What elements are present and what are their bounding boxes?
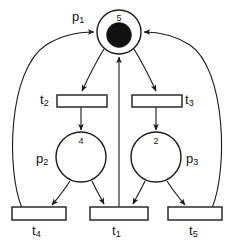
transition-t4[interactable] xyxy=(12,207,66,220)
arc-p2-to-t4 xyxy=(52,181,70,205)
label-t5-sub: 5 xyxy=(193,229,198,239)
arc-p2-to-t1 xyxy=(92,181,104,204)
arc-p3-to-t1 xyxy=(133,181,145,204)
transition-t3[interactable] xyxy=(132,95,182,107)
petri-net-diagram: 5 4 2 p1 p2 p3 t2 t3 t4 t1 t5 xyxy=(0,0,234,243)
label-t2: t2 xyxy=(40,93,49,106)
arc-p1-to-t3 xyxy=(134,49,156,91)
label-t4-sub: 4 xyxy=(36,229,41,239)
label-t4: t4 xyxy=(32,224,41,237)
label-t5: t5 xyxy=(189,224,198,237)
label-t1: t1 xyxy=(112,224,121,237)
label-p1-sub: 1 xyxy=(79,15,84,25)
marking-p3: 2 xyxy=(153,136,158,146)
transition-t5[interactable] xyxy=(168,207,222,220)
marking-p2: 4 xyxy=(78,136,83,146)
arc-p3-to-t5 xyxy=(167,181,185,205)
transition-t2[interactable] xyxy=(57,95,107,107)
marking-p1: 5 xyxy=(116,13,121,23)
petri-net-canvas: 5 4 2 xyxy=(0,0,234,243)
label-p3-sub: 3 xyxy=(193,157,198,167)
label-p1: p1 xyxy=(72,10,84,23)
label-t1-sub: 1 xyxy=(116,229,121,239)
label-t2-sub: 2 xyxy=(44,98,49,108)
label-p2-sub: 2 xyxy=(43,157,48,167)
label-t3: t3 xyxy=(185,93,194,106)
transition-t1[interactable] xyxy=(90,207,148,220)
token-p1 xyxy=(107,23,132,48)
label-p2: p2 xyxy=(36,152,48,165)
arc-p1-to-t2 xyxy=(82,49,104,91)
label-p3: p3 xyxy=(186,152,198,165)
label-t3-sub: 3 xyxy=(189,98,194,108)
